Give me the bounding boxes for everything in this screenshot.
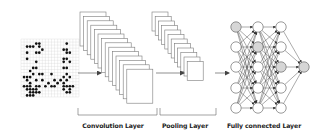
- stone: [62, 82, 65, 85]
- stone: [29, 91, 32, 94]
- stone: [38, 45, 41, 48]
- stone: [50, 73, 53, 76]
- stone: [65, 79, 68, 82]
- layer-brackets: [78, 108, 216, 115]
- neuron-node: [276, 22, 286, 32]
- neuron-node: [276, 42, 286, 52]
- stone: [62, 85, 65, 88]
- pooling-layer-stack: [152, 12, 203, 81]
- stone: [68, 61, 71, 64]
- stone: [41, 48, 44, 51]
- stone: [26, 76, 29, 79]
- stone: [32, 67, 35, 70]
- stone: [50, 85, 53, 88]
- stone: [35, 67, 38, 70]
- neuron-node: [253, 22, 263, 32]
- stone: [72, 85, 75, 88]
- input-go-board: [21, 39, 79, 97]
- fully-connected-layer-label: Fully connected Layer: [227, 122, 301, 129]
- stone: [38, 73, 41, 76]
- stone: [26, 51, 29, 54]
- stone: [68, 85, 71, 88]
- stone: [65, 57, 68, 60]
- diagram-svg: [0, 0, 327, 140]
- stone: [23, 85, 26, 88]
- neuron-node: [231, 42, 241, 52]
- neuron-node: [231, 103, 241, 113]
- stone: [26, 85, 29, 88]
- feature-map: [127, 69, 153, 103]
- stone: [32, 94, 35, 97]
- stone: [68, 76, 71, 79]
- neuron-node: [253, 42, 263, 52]
- stone: [65, 67, 68, 70]
- stone: [35, 88, 38, 91]
- stone: [26, 88, 29, 91]
- stone: [68, 91, 71, 94]
- stone: [65, 85, 68, 88]
- stone: [62, 76, 65, 79]
- stone: [26, 57, 29, 60]
- stone: [56, 82, 59, 85]
- stone: [35, 61, 38, 64]
- neuron-node: [253, 62, 263, 72]
- neuron-node: [231, 22, 241, 32]
- stone: [41, 79, 44, 82]
- stone: [65, 42, 68, 45]
- stone: [29, 45, 32, 48]
- stone: [35, 79, 38, 82]
- stone: [62, 57, 65, 60]
- stone: [32, 91, 35, 94]
- stone: [41, 73, 44, 76]
- stone: [62, 48, 65, 51]
- neuron-node: [253, 83, 263, 93]
- convolution-layer-stack: [80, 12, 153, 103]
- stone: [65, 73, 68, 76]
- pooling-layer-label: Pooling Layer: [162, 122, 208, 129]
- stone: [29, 70, 32, 73]
- stone: [32, 88, 35, 91]
- stone: [65, 91, 68, 94]
- stone: [32, 73, 35, 76]
- stone: [65, 51, 68, 54]
- stone: [68, 51, 71, 54]
- stone: [23, 76, 26, 79]
- stone: [53, 79, 56, 82]
- stone: [29, 88, 32, 91]
- stone: [26, 79, 29, 82]
- stone: [38, 91, 41, 94]
- stone: [26, 94, 29, 97]
- neuron-node: [253, 103, 263, 113]
- neuron-node: [299, 62, 309, 72]
- stone: [68, 88, 71, 91]
- stone: [32, 45, 35, 48]
- stone: [62, 67, 65, 70]
- stone: [35, 91, 38, 94]
- stone: [29, 82, 32, 85]
- feature-map: [187, 62, 203, 81]
- neuron-node: [231, 62, 241, 72]
- stone: [62, 61, 65, 64]
- stone: [65, 48, 68, 51]
- stone: [62, 88, 65, 91]
- stone: [44, 85, 47, 88]
- cnn-diagram: Convolution Layer Pooling Layer Fully co…: [0, 0, 327, 140]
- fully-connected-network: [231, 22, 309, 113]
- stone: [47, 82, 50, 85]
- stone: [38, 85, 41, 88]
- stone: [53, 85, 56, 88]
- convolution-layer-label: Convolution Layer: [82, 122, 143, 129]
- stone: [35, 51, 38, 54]
- stone: [38, 42, 41, 45]
- stone: [35, 42, 38, 45]
- stone: [35, 85, 38, 88]
- stone: [26, 45, 29, 48]
- neuron-node: [231, 83, 241, 93]
- neuron-node: [276, 103, 286, 113]
- stone: [38, 51, 41, 54]
- stone: [29, 76, 32, 79]
- neuron-node: [276, 83, 286, 93]
- stone: [29, 85, 32, 88]
- stone: [59, 79, 62, 82]
- neuron-node: [276, 62, 286, 72]
